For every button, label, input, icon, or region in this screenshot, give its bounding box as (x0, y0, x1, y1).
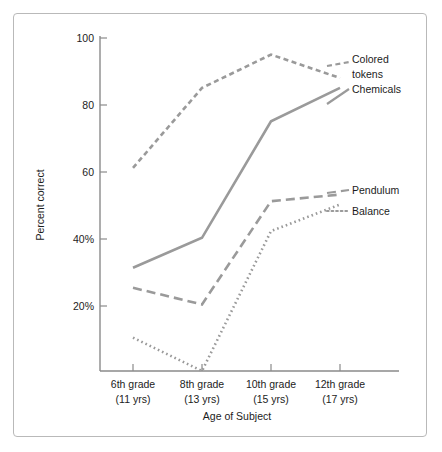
y-tick-label-20: 20% (73, 300, 94, 312)
y-tick-group (100, 38, 107, 306)
line-chart: 100 80 60 40% 20% Percent correct 6th gr… (0, 0, 442, 452)
series-label-colored-tokens-line2: tokens (352, 68, 383, 80)
x-tick-label-6th-age: (11 yrs) (116, 393, 151, 405)
x-tick-label-12th-grade: 12th grade (315, 378, 365, 390)
x-tick-label-10th-grade: 10th grade (246, 378, 296, 390)
x-tick-label-8th-grade: 8th grade (180, 378, 225, 390)
series-label-colored-tokens-line1: Colored (352, 53, 389, 65)
y-tick-label-80: 80 (82, 99, 94, 111)
series-line-colored-tokens (133, 55, 340, 168)
y-tick-label-60: 60 (82, 166, 94, 178)
series-line-pendulum (133, 195, 340, 305)
y-axis-title: Percent correct (34, 169, 46, 240)
series-labels-group: Colored tokens Chemicals Pendulum Balanc… (327, 53, 401, 217)
leader-line-pendulum (327, 190, 349, 193)
leader-line-colored-tokens (327, 62, 349, 66)
series-label-pendulum: Pendulum (352, 184, 400, 196)
y-tick-labels: 100 80 60 40% 20% (73, 32, 94, 312)
y-tick-label-100: 100 (76, 32, 94, 44)
x-axis-title: Age of Subject (203, 410, 271, 422)
y-tick-label-40: 40% (73, 233, 94, 245)
x-tick-label-12th-age: (17 yrs) (322, 393, 358, 405)
x-tick-label-8th-age: (13 yrs) (184, 393, 220, 405)
x-tick-group (133, 364, 340, 371)
x-tick-label-6th-grade: 6th grade (111, 378, 156, 390)
chart-figure: 100 80 60 40% 20% Percent correct 6th gr… (0, 0, 442, 452)
x-tick-label-10th-age: (15 yrs) (253, 393, 289, 405)
series-line-balance (133, 205, 340, 372)
series-line-chemicals (133, 88, 340, 268)
series-group (133, 55, 340, 371)
series-label-chemicals: Chemicals (352, 83, 401, 95)
series-label-balance: Balance (352, 205, 390, 217)
x-tick-labels: 6th grade (11 yrs) 8th grade (13 yrs) 10… (111, 378, 365, 405)
